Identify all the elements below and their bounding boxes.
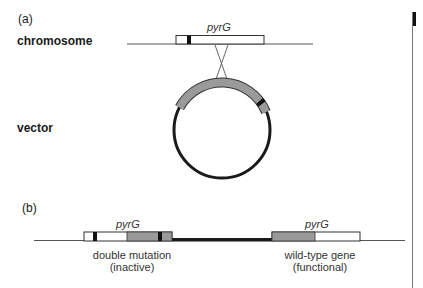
chromosome-gene-label: pyrG [207, 21, 231, 33]
right-caption-line1: wild-type gene [270, 249, 370, 261]
vector-mutation-marker [260, 101, 263, 104]
panel-a-label: (a) [18, 12, 33, 26]
left-caption-line1: double mutation [82, 249, 182, 261]
left-caption: double mutation (inactive) [82, 249, 182, 273]
left-caption-line2: (inactive) [82, 261, 182, 273]
panel-b-label: (b) [22, 201, 37, 215]
crossover-lines [215, 45, 228, 82]
mutation-marker [187, 36, 191, 45]
diagram: (a) chromosome pyrG vector (b) pyrG pyrG… [0, 0, 423, 288]
right-caption-line2: (functional) [270, 261, 370, 273]
right-caption: wild-type gene (functional) [270, 249, 370, 273]
chromosome-pyrg-gene [176, 36, 264, 45]
vector-label: vector [17, 121, 53, 135]
integrated-vector-backbone [172, 238, 272, 242]
left-pyrg-gene [84, 232, 172, 241]
right-gene-label: pyrG [305, 218, 329, 230]
left-gene-label: pyrG [116, 218, 140, 230]
chromosome-label: chromosome [17, 34, 92, 48]
right-pyrg-gene [272, 232, 360, 241]
